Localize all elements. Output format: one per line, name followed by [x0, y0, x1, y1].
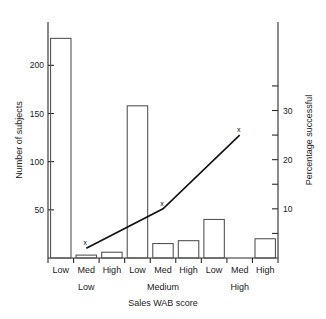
- category-label: High: [256, 265, 275, 275]
- bar: [153, 244, 173, 258]
- group-label: Medium: [147, 282, 179, 292]
- left-tick-label: 200: [30, 60, 44, 70]
- line-marker-x: x: [160, 200, 164, 207]
- category-ticks: [48, 258, 278, 263]
- category-label: Med: [154, 265, 172, 275]
- bar: [127, 106, 147, 258]
- trend-line: [86, 135, 239, 248]
- group-label: High: [230, 282, 249, 292]
- bar: [204, 219, 224, 258]
- right-tick-label: 10: [283, 204, 293, 214]
- bar: [178, 241, 198, 258]
- category-label: Low: [206, 265, 223, 275]
- chart-svg: 50100150200 102030 xxx LowMedHighLowMedH…: [0, 0, 326, 319]
- bar: [255, 239, 275, 258]
- right-axis-ticks: 102030: [272, 86, 293, 234]
- bar: [76, 255, 96, 258]
- right-tick-label: 20: [283, 155, 293, 165]
- left-tick-label: 100: [30, 157, 44, 167]
- category-label: High: [179, 265, 198, 275]
- category-label: Low: [53, 265, 70, 275]
- bar: [102, 252, 122, 258]
- x-axis-title: Sales WAB score: [128, 298, 198, 308]
- bar-series: [51, 38, 276, 258]
- category-label: High: [103, 265, 122, 275]
- left-axis-title: Number of subjects: [14, 101, 24, 179]
- category-label: Low: [129, 265, 146, 275]
- left-tick-label: 50: [35, 205, 45, 215]
- right-tick-label: 30: [283, 106, 293, 116]
- line-marker-x: x: [237, 126, 241, 133]
- line-series: xxx: [84, 126, 241, 248]
- line-marker-x: x: [84, 239, 88, 246]
- right-axis-title: Percentage successful: [304, 95, 314, 186]
- bar: [51, 38, 71, 258]
- group-label: Low: [78, 282, 95, 292]
- group-labels: LowMediumHigh: [78, 282, 249, 292]
- category-label: Med: [78, 265, 96, 275]
- left-tick-label: 150: [30, 109, 44, 119]
- category-label: Med: [231, 265, 249, 275]
- category-labels: LowMedHighLowMedHighLowMedHigh: [53, 265, 275, 275]
- chart-container: 50100150200 102030 xxx LowMedHighLowMedH…: [0, 0, 326, 319]
